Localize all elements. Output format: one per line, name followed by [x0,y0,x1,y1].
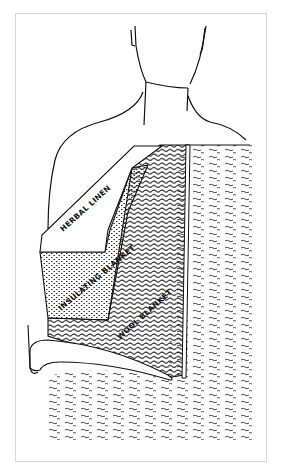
wrap-illustration: HERBAL LINEN INSULATING BLANKET WOOL BLA… [0,0,284,476]
